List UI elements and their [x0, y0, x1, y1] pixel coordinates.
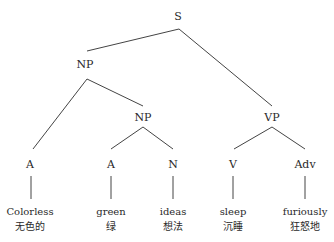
node-s: S	[174, 11, 182, 22]
node-v: V	[229, 159, 237, 170]
leaf-en: green	[96, 204, 125, 219]
node-np-inner: NP	[134, 112, 151, 123]
leaf-zh: 无色的	[6, 219, 53, 234]
node-a-2: A	[107, 159, 115, 170]
edge-np2-n	[143, 127, 173, 149]
leaf-zh: 想法	[160, 219, 187, 234]
edge-np-a	[33, 79, 87, 149]
edge-s-np	[87, 29, 179, 51]
edge-vp-v	[234, 127, 272, 149]
leaf-en: ideas	[160, 204, 187, 219]
edge-s-vp	[179, 29, 272, 106]
node-a-1: A	[26, 159, 34, 170]
leaf-green: green 绿	[96, 204, 125, 234]
leaf-zh: 绿	[96, 219, 125, 234]
leaf-ideas: ideas 想法	[160, 204, 187, 234]
leaf-zh: 狂怒地	[283, 219, 328, 234]
leaf-en: Colorless	[6, 204, 53, 219]
node-np: NP	[76, 59, 93, 70]
parse-tree-diagram: S NP NP VP A A N V Adv Colorless 无色的 gre…	[0, 0, 334, 242]
edge-vp-adv	[272, 127, 305, 149]
leaf-en: furiously	[283, 204, 328, 219]
edge-np2-a	[111, 127, 143, 149]
leaf-sleep: sleep 沉睡	[220, 204, 247, 234]
leaf-colorless: Colorless 无色的	[6, 204, 53, 234]
node-vp: VP	[264, 112, 279, 123]
leaf-en: sleep	[220, 204, 247, 219]
node-n: N	[168, 159, 178, 170]
node-adv: Adv	[294, 159, 315, 170]
leaf-furiously: furiously 狂怒地	[283, 204, 328, 234]
edge-np-np	[87, 79, 143, 106]
leaf-zh: 沉睡	[220, 219, 247, 234]
